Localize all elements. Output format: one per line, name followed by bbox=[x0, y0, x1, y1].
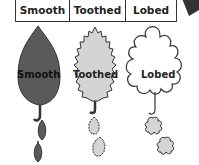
lobed-leaf-label: Lobed bbox=[141, 69, 175, 80]
smooth-leaf-label: Smooth bbox=[17, 69, 60, 80]
toothed-leaf-icon bbox=[74, 27, 116, 156]
leaf-illustrations bbox=[0, 0, 199, 165]
smooth-leaf-icon bbox=[18, 26, 60, 162]
lobed-leaf-icon bbox=[126, 27, 181, 155]
toothed-leaf-label: Toothed bbox=[73, 69, 118, 80]
